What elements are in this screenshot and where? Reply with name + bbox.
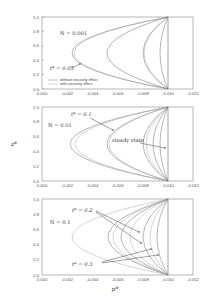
y-tick: 0.8 xyxy=(33,212,39,217)
t-label: t* = 0.05 xyxy=(50,65,74,71)
x-tick: -0.006 xyxy=(112,277,125,282)
x-tick: -0.012 xyxy=(187,277,200,282)
y-tick: 0.6 xyxy=(33,227,39,232)
x-tick: -0.008 xyxy=(137,183,150,188)
arrow xyxy=(90,118,113,130)
x-tick: -0.006 xyxy=(112,91,125,96)
y-axis-ticks: 0.0 0.2 0.4 0.6 0.8 1.0 xyxy=(33,15,44,92)
x-tick: -0.002 xyxy=(61,277,74,282)
y-tick: 0.6 xyxy=(33,134,39,139)
t-label: t* = 0.3 xyxy=(72,261,93,267)
y-axis-ticks: 0.0 0.2 0.4 0.6 0.8 1.0 xyxy=(33,197,39,278)
arrow xyxy=(102,255,158,263)
x-tick: 0.000 xyxy=(37,183,48,188)
figure: 0.0 0.2 0.4 0.6 0.8 1.0 0.000 -0.002 -0.… xyxy=(0,0,210,300)
curves xyxy=(70,107,168,181)
x-tick: -0.010 xyxy=(162,91,175,96)
steady-state-label: steady state xyxy=(112,137,144,144)
y-axis-label: z* xyxy=(10,140,17,147)
n-label: N = 0.1 xyxy=(50,219,70,225)
x-tick: 0.000 xyxy=(37,277,48,282)
y-axis-ticks: 0.0 0.2 0.4 0.6 0.8 1.0 xyxy=(33,105,39,184)
y-tick: 0.4 xyxy=(33,58,39,63)
y-tick: 0.8 xyxy=(33,119,39,124)
legend-item-with-viscosity: with viscosity effect xyxy=(60,82,93,86)
x-tick: -0.012 xyxy=(187,91,200,96)
panel-middle: 0.0 0.2 0.4 0.6 0.8 1.0 0.000 -0.002 -0.… xyxy=(33,105,199,189)
x-tick: -0.010 xyxy=(162,183,175,188)
y-tick: 0.4 xyxy=(33,242,39,247)
n-label: N = 0.001 xyxy=(60,30,87,36)
x-tick: 0.000 xyxy=(37,91,48,96)
y-tick: 0.2 xyxy=(33,72,39,77)
panel-top: 0.0 0.2 0.4 0.6 0.8 1.0 0.000 -0.002 -0.… xyxy=(33,15,199,97)
y-tick: 1.0 xyxy=(33,197,39,202)
x-tick: -0.004 xyxy=(86,91,99,96)
n-label: N = 0.01 xyxy=(48,122,72,128)
x-tick: -0.002 xyxy=(61,183,74,188)
arrow xyxy=(140,143,165,148)
legend: without viscosity effect with viscosity … xyxy=(48,78,99,86)
x-tick: -0.008 xyxy=(137,277,150,282)
x-tick: -0.012 xyxy=(187,183,200,188)
y-tick: 0.8 xyxy=(33,29,39,34)
y-tick: 1.0 xyxy=(33,105,39,110)
x-axis-ticks: 0.000 -0.002 -0.004 -0.006 -0.008 -0.010… xyxy=(37,183,200,188)
x-tick: -0.008 xyxy=(137,91,150,96)
x-axis-ticks: 0.000 -0.002 -0.004 -0.006 -0.008 -0.010… xyxy=(37,277,200,282)
t-label: t* = 0.2 xyxy=(72,207,93,213)
panel-bottom: 0.0 0.2 0.4 0.6 0.8 1.0 0.000 -0.002 -0.… xyxy=(33,197,199,283)
x-tick: -0.010 xyxy=(162,277,175,282)
y-tick: 0.4 xyxy=(33,149,39,154)
x-tick: -0.006 xyxy=(112,183,125,188)
x-tick: -0.004 xyxy=(86,183,99,188)
t-label: t* = 0.1 xyxy=(71,111,92,117)
y-tick: 0.2 xyxy=(33,164,39,169)
y-tick: 0.6 xyxy=(33,43,39,48)
y-tick: 1.0 xyxy=(33,15,39,20)
plot-frame xyxy=(42,199,193,275)
x-axis-ticks: 0.000 -0.002 -0.004 -0.006 -0.008 -0.010… xyxy=(37,91,200,96)
y-tick: 0.2 xyxy=(33,257,39,262)
x-tick: -0.004 xyxy=(86,277,99,282)
x-tick: -0.002 xyxy=(61,91,74,96)
x-axis-label: p* xyxy=(112,285,119,293)
